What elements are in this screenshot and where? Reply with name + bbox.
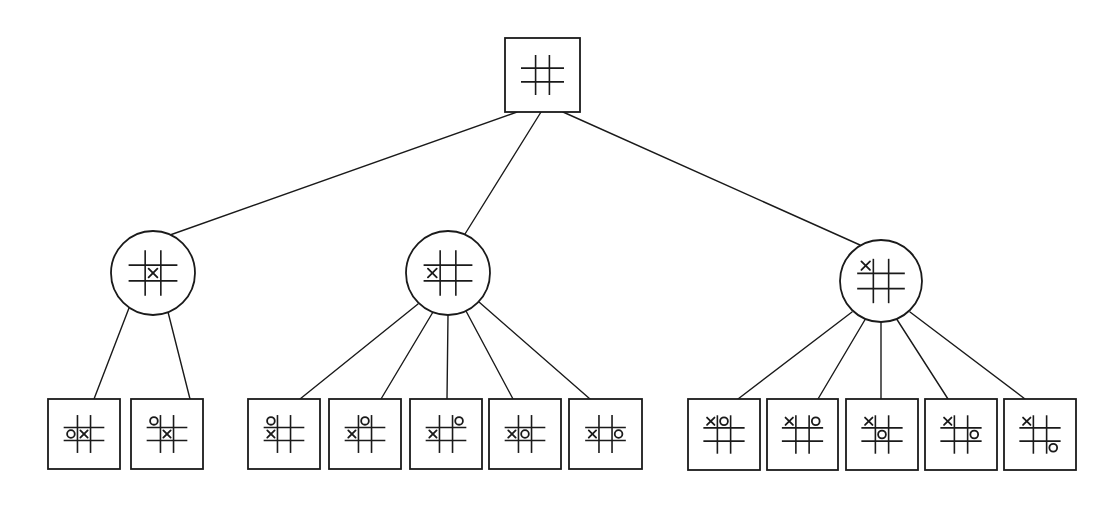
tree-edge-b-b4 — [466, 311, 513, 399]
tree-edge-c-c1 — [738, 312, 852, 399]
board-frame — [248, 399, 320, 469]
tree-edge-b-b2 — [381, 312, 433, 399]
tree-edge-b-b5 — [479, 302, 590, 399]
board-frame — [925, 399, 997, 470]
board-frame — [846, 399, 918, 470]
board-frame — [410, 399, 482, 469]
circle-node-a — [111, 231, 195, 315]
tree-edge-c-c2 — [818, 318, 866, 399]
board-frame — [1004, 399, 1076, 470]
square-node-c2 — [767, 399, 838, 470]
tree-edge-root-b — [465, 112, 541, 234]
game-tree-diagram — [0, 0, 1096, 530]
tree-edge-b-b3 — [447, 315, 448, 399]
board-frame-circle — [406, 231, 490, 315]
board-frame — [767, 399, 838, 470]
circle-node-b — [406, 231, 490, 315]
tree-edge-root-c — [563, 112, 860, 245]
square-node-c5 — [1004, 399, 1076, 470]
circle-node-c — [840, 240, 922, 322]
board-frame — [505, 38, 580, 112]
square-node-c3 — [846, 399, 918, 470]
tree-edge-c-c4 — [896, 318, 948, 399]
tree-edge-b-b1 — [300, 304, 418, 399]
square-node-b1 — [248, 399, 320, 469]
square-node-b2 — [329, 399, 401, 469]
tree-edge-root-a — [170, 112, 517, 235]
square-node-root — [505, 38, 580, 112]
square-node-b5 — [569, 399, 642, 469]
square-node-c4 — [925, 399, 997, 470]
square-node-a2 — [131, 399, 203, 469]
board-frame — [329, 399, 401, 469]
square-node-b4 — [489, 399, 561, 469]
board-frame — [688, 399, 760, 470]
tree-edge-c-c5 — [910, 312, 1025, 399]
square-node-c1 — [688, 399, 760, 470]
tree-edge-a-a1 — [94, 308, 129, 399]
board-frame-circle — [840, 240, 922, 322]
square-node-b3 — [410, 399, 482, 469]
tree-nodes — [48, 38, 1076, 470]
board-frame — [489, 399, 561, 469]
square-node-a1 — [48, 399, 120, 469]
board-frame — [569, 399, 642, 469]
tree-edge-a-a2 — [168, 312, 190, 399]
